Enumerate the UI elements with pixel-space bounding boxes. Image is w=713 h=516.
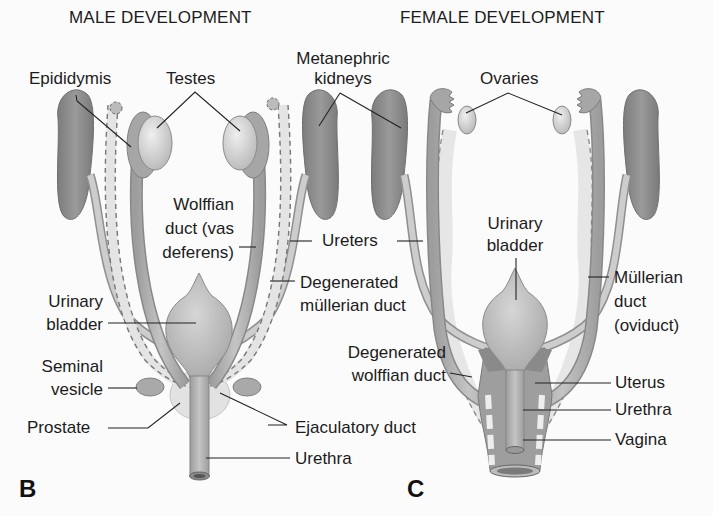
label-ejaculatory-duct: Ejaculatory duct xyxy=(295,418,416,438)
diagram: MALE DEVELOPMENT FEMALE DEVELOPMENT Epid… xyxy=(0,0,713,516)
label-metanephric-kidneys: Metanephric kidneys xyxy=(278,49,408,89)
label-prostate: Prostate xyxy=(27,418,90,438)
female-development-title: FEMALE DEVELOPMENT xyxy=(400,8,605,28)
label-uterus: Uterus xyxy=(615,373,665,393)
label-urinary-bladder-female: Urinary bladder xyxy=(470,213,560,257)
label-vagina: Vagina xyxy=(615,430,667,450)
male-development-title: MALE DEVELOPMENT xyxy=(69,8,252,28)
panel-letter-b: B xyxy=(19,475,36,503)
label-epididymis: Epididymis xyxy=(29,69,111,89)
panel-letter-c: C xyxy=(407,475,424,503)
label-testes: Testes xyxy=(166,69,215,89)
label-degenerated-mullerian-duct: Degenerated müllerian duct xyxy=(300,271,406,317)
label-urethra-female: Urethra xyxy=(615,400,672,420)
label-urinary-bladder-male: Urinary bladder xyxy=(20,290,103,336)
label-urethra-male: Urethra xyxy=(295,449,352,469)
label-wolffian-duct: Wolffian duct (vas deferens) xyxy=(140,193,234,265)
label-ovaries: Ovaries xyxy=(480,69,539,89)
label-degenerated-wolffian-duct: Degenerated wolffian duct xyxy=(318,341,446,387)
label-seminal-vesicle: Seminal vesicle xyxy=(20,355,103,401)
label-mullerian-duct-oviduct: Müllerian duct (oviduct) xyxy=(614,266,683,338)
label-ureters: Ureters xyxy=(322,231,378,251)
